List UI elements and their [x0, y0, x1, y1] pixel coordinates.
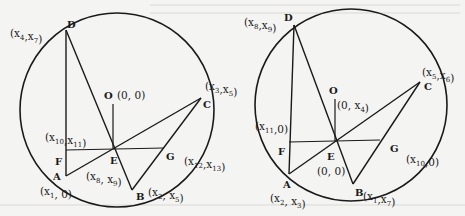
- coord-E: (x8, x9): [86, 170, 122, 188]
- coord-G: (x12,x13): [184, 155, 225, 173]
- label-C: C: [203, 99, 211, 110]
- geometry-figures: D (x4,x7) C (x3,x5) O (0, 0) (x10,x11) F…: [0, 0, 465, 216]
- segment-DB: [66, 30, 132, 190]
- bleed-through-text: [0, 4, 465, 206]
- coord-G: (x10,0): [406, 153, 439, 168]
- coord-E: (0, 0): [317, 165, 345, 177]
- label-F: F: [278, 146, 285, 157]
- segment-DA: [289, 25, 294, 174]
- label-E: E: [110, 155, 118, 166]
- coord-O: (0, 0): [117, 89, 145, 101]
- label-G: G: [390, 143, 399, 154]
- segment-CB: [353, 82, 420, 184]
- label-D: D: [284, 12, 293, 23]
- label-B: B: [136, 191, 144, 202]
- label-O: O: [104, 90, 113, 101]
- label-D: D: [67, 19, 76, 30]
- coord-D: (x8,x9): [244, 16, 276, 34]
- label-E: E: [327, 151, 335, 162]
- coord-O: (0, x4): [337, 99, 369, 114]
- coord-B: (x2, x5): [148, 186, 184, 204]
- coord-F: (x11,0): [255, 120, 288, 135]
- segment-AC: [66, 98, 201, 176]
- coord-C: (x3,x5): [205, 80, 237, 98]
- label-F: F: [55, 156, 62, 167]
- coord-D: (x4,x7): [10, 27, 42, 45]
- coord-A: (x2, x3): [270, 192, 306, 210]
- label-C: C: [424, 81, 432, 92]
- segment-CB: [132, 98, 201, 190]
- coord-A: (x1, 0): [40, 185, 72, 200]
- label-A: A: [52, 171, 61, 182]
- label-O: O: [329, 85, 338, 96]
- segment-AC: [289, 82, 420, 174]
- label-A: A: [282, 179, 291, 190]
- label-G: G: [166, 151, 175, 162]
